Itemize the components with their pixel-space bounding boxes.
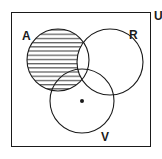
- venn-diagram: A R V U: [0, 0, 162, 159]
- hatched-region-a-minus-r: [20, 25, 100, 100]
- label-v: V: [101, 130, 109, 144]
- marked-point-dot: [80, 99, 84, 103]
- label-a: A: [22, 29, 31, 43]
- label-r: R: [129, 28, 138, 42]
- label-u: U: [154, 9, 162, 23]
